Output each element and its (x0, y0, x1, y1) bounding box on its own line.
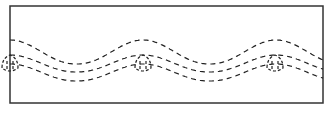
wave-diagram (0, 0, 332, 113)
streamline-lower (10, 64, 323, 81)
vortex-cell (135, 55, 151, 71)
dashed-streamlines (10, 40, 323, 81)
vortex-cells (2, 55, 283, 71)
vortex-cell (267, 55, 283, 71)
diagram-frame (10, 6, 323, 103)
